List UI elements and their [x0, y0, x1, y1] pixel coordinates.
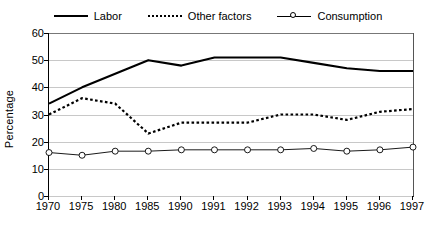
- legend-entry-consumption: Consumption: [277, 11, 382, 22]
- chart-figure: Labor Other factors Consumption Percenta…: [0, 0, 436, 238]
- data-point-marker: [245, 147, 251, 153]
- x-axis-tick-labels: 1970197519801985199019911992199319941995…: [48, 200, 412, 216]
- data-point-marker: [178, 147, 184, 153]
- x-axis-tick-label: 1997: [392, 200, 432, 212]
- series-line-other-factors: [49, 98, 413, 133]
- data-point-marker: [79, 152, 85, 158]
- data-point-marker: [145, 148, 151, 154]
- legend-label-consumption: Consumption: [317, 11, 382, 22]
- circle-marker-line-swatch-icon: [277, 11, 311, 21]
- legend-entry-other-factors: Other factors: [148, 11, 252, 22]
- series-layer: [49, 33, 413, 196]
- legend-label-labor: Labor: [94, 11, 122, 22]
- plot-area: [48, 33, 414, 197]
- data-point-marker: [410, 144, 416, 150]
- series-line-consumption: [49, 147, 413, 155]
- data-point-marker: [278, 147, 284, 153]
- legend-label-other-factors: Other factors: [188, 11, 252, 22]
- data-point-marker: [344, 148, 350, 154]
- dotted-line-swatch-icon: [148, 11, 182, 21]
- data-point-marker: [211, 147, 217, 153]
- data-point-marker: [311, 145, 317, 151]
- chart-legend: Labor Other factors Consumption: [0, 6, 436, 26]
- data-point-marker: [46, 150, 52, 156]
- data-point-marker: [377, 147, 383, 153]
- data-point-marker: [112, 148, 118, 154]
- series-line-labor: [49, 57, 413, 103]
- y-axis-tick-marks: [0, 33, 48, 196]
- solid-line-swatch-icon: [54, 11, 88, 21]
- legend-entry-labor: Labor: [54, 11, 122, 22]
